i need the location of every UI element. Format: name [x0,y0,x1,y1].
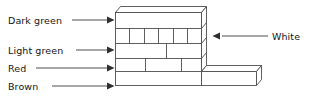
label-brown: Brown [8,81,38,92]
wall-top-face [116,7,207,13]
wall-front-face [116,13,202,86]
arrowhead-light-green [107,47,115,54]
arrowhead-white [213,33,221,40]
label-light-green: Light green [8,45,63,56]
callout-arrowheads-left [107,17,115,90]
arrowhead-brown [107,83,115,90]
callout-arrowhead-white [213,33,221,40]
label-red: Red [8,63,26,74]
bottom-row-extension [202,66,262,86]
arrowhead-red [107,65,115,72]
figure-root: Dark green Light green Red Brown White [0,0,320,111]
label-dark-green: Dark green [8,15,62,26]
label-white: White [272,31,300,42]
arrowhead-dark-green [107,17,115,24]
